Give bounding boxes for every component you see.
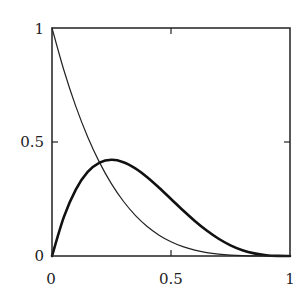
x-tick-label-0.5: 0.5: [159, 270, 183, 288]
plot-frame: [52, 28, 290, 256]
y-tick-label-0: 0: [34, 247, 44, 265]
x-tick-label-1: 1: [285, 270, 295, 288]
y-tick-label-0.5: 0.5: [20, 133, 44, 151]
plot-curves: [52, 28, 290, 256]
chart: 0 0.5 1 0 0.5 1: [0, 0, 301, 307]
x-tick-label-0: 0: [46, 270, 56, 288]
y-tick-label-1: 1: [34, 20, 44, 38]
thin-curve: [52, 28, 290, 256]
